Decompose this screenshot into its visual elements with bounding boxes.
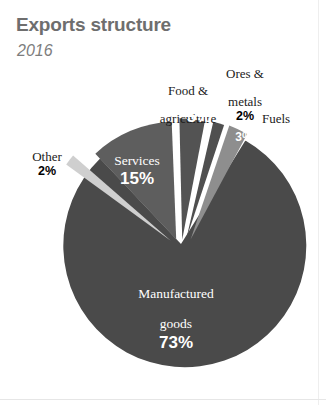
- chart-page: Exports structure 2016 Other 2% Food & a…: [0, 0, 326, 405]
- slice-label-food-line1: Food &: [168, 83, 208, 98]
- slice-label-other: Other 2%: [18, 136, 76, 193]
- slice-value-manufactured-goods: 73%: [118, 334, 234, 353]
- slice-label-manufactured-line1: Manufactured: [138, 286, 214, 301]
- slice-label-other-name: Other: [32, 149, 62, 164]
- slice-value-other: 2%: [18, 165, 76, 179]
- slice-label-ores-line1: Ores &: [226, 66, 264, 81]
- slice-label-fuels-name: Fuels: [262, 111, 290, 126]
- slice-label-manufactured-line2: goods: [160, 316, 192, 331]
- slice-label-services: Services 15%: [96, 139, 178, 203]
- slice-label-services-name: Services: [114, 153, 160, 168]
- slice-label-ores-line2: metals: [228, 94, 262, 109]
- slice-label-fuels: Fuels: [262, 98, 314, 126]
- slice-label-manufactured-goods: Manufactured goods 73%: [118, 272, 234, 368]
- slice-value-services: 15%: [96, 170, 178, 189]
- slice-value-food-agriculture: 5%: [181, 108, 217, 127]
- slice-value-fuels: 3%: [230, 131, 258, 144]
